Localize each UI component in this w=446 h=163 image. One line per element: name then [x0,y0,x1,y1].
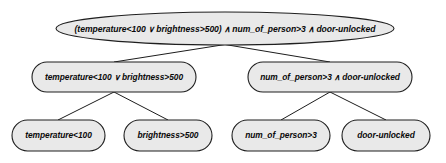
edge-root-to-mid-right [225,45,330,63]
edge-mid-right-to-leaf-3 [281,92,330,120]
node-leaf-1-label: temperature<100 [25,130,92,140]
edge-root-to-mid-left [114,45,225,63]
tree-canvas: (temperature<100 ∨ brightness>500) ∧ num… [0,0,446,163]
edge-mid-right-to-leaf-4 [330,92,386,120]
edge-mid-left-to-leaf-1 [58,92,114,120]
node-leaf-3-label: num_of_person>3 [245,130,317,140]
node-mid-left-label: temperature<100 ∨ brightness>500 [45,72,183,82]
node-leaf-4-label: door-unlocked [357,130,415,140]
node-root[interactable]: (temperature<100 ∨ brightness>500) ∧ num… [56,12,394,45]
node-root-label: (temperature<100 ∨ brightness>500) ∧ num… [75,24,377,34]
node-mid-left[interactable]: temperature<100 ∨ brightness>500 [32,62,196,92]
node-leaf-door-unlocked[interactable]: door-unlocked [342,120,430,151]
node-leaf-num-of-person[interactable]: num_of_person>3 [232,120,330,151]
node-leaf-brightness[interactable]: brightness>500 [124,120,212,151]
expression-tree-diagram: (temperature<100 ∨ brightness>500) ∧ num… [0,0,446,163]
edge-group-level-1-to-2 [58,92,386,120]
node-mid-right[interactable]: num_of_person>3 ∧ door-unlocked [248,62,412,92]
node-leaf-2-label: brightness>500 [138,130,199,140]
edge-group-level-0-to-1 [114,45,330,63]
edge-mid-left-to-leaf-2 [114,92,168,120]
node-leaf-temperature[interactable]: temperature<100 [12,120,105,151]
node-mid-right-label: num_of_person>3 ∧ door-unlocked [260,72,401,82]
